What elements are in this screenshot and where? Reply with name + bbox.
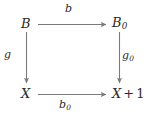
- edge-label-right-subscript: 0: [129, 54, 134, 63]
- node-top-right: B0: [112, 16, 127, 29]
- edge-label-right-base: g: [122, 49, 129, 62]
- node-top-left-base: B: [21, 16, 31, 31]
- node-bottom-right: X+1: [112, 87, 144, 100]
- edge-label-left: g: [4, 49, 11, 60]
- edge-label-top-base: b: [65, 2, 72, 15]
- node-bottom-left: X: [21, 87, 30, 100]
- edge-label-bottom-subscript: 0: [66, 103, 71, 112]
- edge-label-right: g0: [122, 50, 134, 61]
- edge-label-bottom-base: b: [59, 98, 66, 111]
- node-bottom-right-operator: +: [123, 86, 134, 101]
- edge-label-bottom: b0: [59, 99, 71, 110]
- commutative-diagram: B B0 X X+1 b b0 g g0: [0, 0, 149, 118]
- node-bottom-right-base: X: [112, 86, 121, 101]
- node-top-right-subscript: 0: [122, 21, 128, 31]
- node-bottom-left-base: X: [21, 86, 30, 101]
- edge-label-top: b: [65, 3, 72, 14]
- node-top-left: B: [21, 17, 31, 30]
- node-bottom-right-number: 1: [136, 86, 144, 101]
- edge-label-left-base: g: [4, 48, 11, 61]
- node-top-right-base: B: [112, 15, 122, 30]
